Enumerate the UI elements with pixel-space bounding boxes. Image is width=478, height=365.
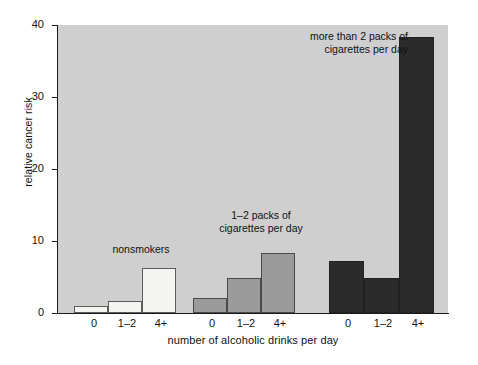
y-axis-title: relative cancer risk [22,52,34,232]
bar-onetwopacks-4plus [261,253,295,313]
x-axis-line [57,313,449,314]
plot-area [58,25,448,313]
bar-morethan2packs-4plus [399,37,434,313]
bar-onetwopacks-1-2 [227,278,261,313]
bar-chart-figure: 40 30 20 10 0 relative cancer risk 0 1–2… [0,0,478,365]
y-tick-label-0: 0 [0,307,48,318]
y-tick-mark [52,97,58,98]
bar-morethan2packs-1-2 [364,278,399,313]
x-tick-label-g3-0: 0 [328,317,368,330]
bar-nonsmokers-1-2 [108,301,142,313]
y-tick-label-10: 10 [0,235,48,246]
bar-onetwopacks-0 [193,298,227,313]
x-tick-label-g2-2: 4+ [260,317,300,330]
y-tick-mark [52,313,58,314]
y-tick-mark [52,169,58,170]
y-tick-label-40: 40 [0,19,48,30]
bar-nonsmokers-4plus [142,268,176,313]
bar-nonsmokers-0 [74,306,108,313]
x-tick-label-g3-1: 1–2 [363,317,403,330]
x-tick-label-g1-2: 4+ [141,317,181,330]
annotation-onetwopacks: 1–2 packs of cigarettes per day [190,209,332,235]
y-tick-mark [52,25,58,26]
y-tick-mark [52,241,58,242]
bar-morethan2packs-0 [329,261,364,313]
x-axis-title: number of alcoholic drinks per day [58,334,448,346]
annotation-morethan2packs: more than 2 packs of cigarettes per day [262,30,408,56]
annotation-nonsmokers: nonsmokers [86,243,196,256]
x-tick-label-g3-2: 4+ [398,317,438,330]
